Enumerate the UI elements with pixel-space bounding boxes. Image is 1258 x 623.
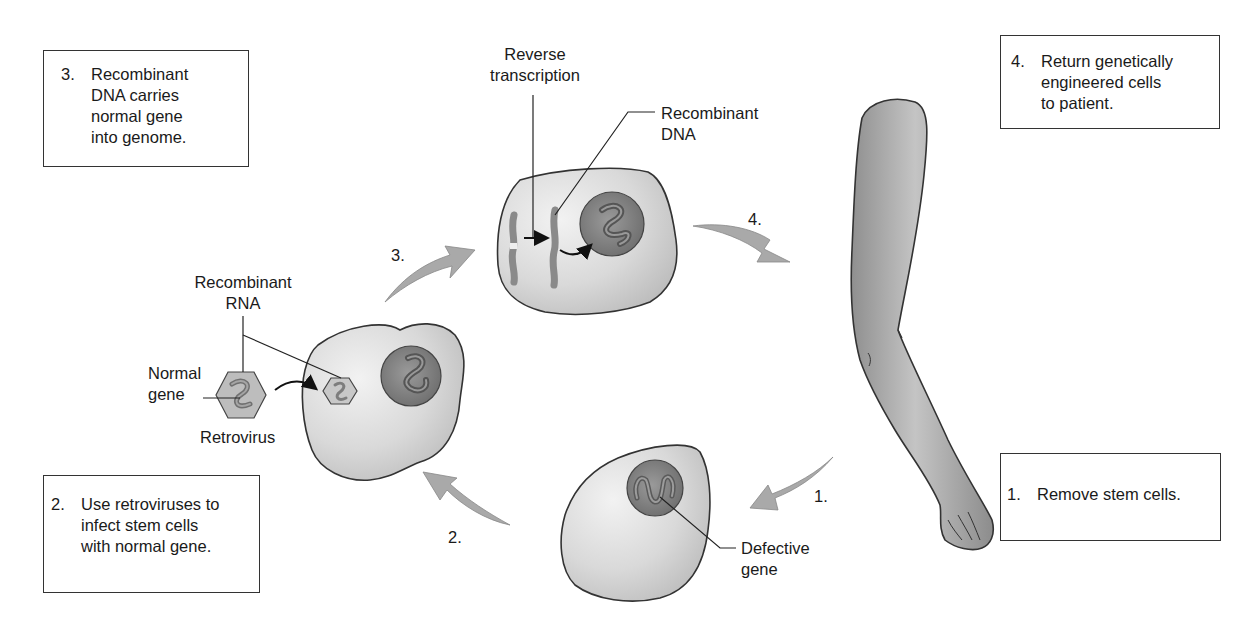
step-4-arrow — [693, 225, 790, 262]
stem-cell-transcription — [498, 168, 677, 314]
arrow-label-1: 1. — [814, 487, 828, 506]
label-retrovirus: Retrovirus — [200, 427, 275, 448]
arrow-label-3: 3. — [391, 246, 405, 265]
label-recombinant-dna: Recombinant DNA — [661, 103, 758, 145]
arrow-label-2: 2. — [448, 528, 462, 547]
step-box-2: 2. Use retroviruses to infect stem cells… — [43, 475, 260, 593]
label-recombinant-rna: Recombinant RNA — [183, 272, 303, 314]
step-2-arrow — [423, 472, 510, 525]
step-box-4: 4. Return genetically engineered cells t… — [1000, 35, 1220, 129]
step-number: 1. — [1007, 484, 1037, 505]
step-box-1: 1. Remove stem cells. — [1000, 453, 1221, 541]
arrow-label-4: 4. — [748, 210, 762, 229]
step-number: 2. — [51, 494, 81, 557]
step-description: Remove stem cells. — [1037, 484, 1181, 505]
stem-cell-infected — [302, 324, 464, 480]
retrovirus-particle — [216, 372, 315, 418]
step-description: Use retroviruses to infect stem cells wi… — [81, 494, 219, 557]
gene-therapy-diagram: 3. Recombinant DNA carries normal gene i… — [0, 0, 1258, 623]
step-description: Return genetically engineered cells to p… — [1041, 51, 1173, 114]
label-normal-gene: Normal gene — [148, 363, 201, 405]
label-defective-gene: Defective gene — [741, 538, 810, 580]
label-reverse-transcription: Reverse transcription — [475, 44, 595, 86]
step-description: Recombinant DNA carries normal gene into… — [91, 64, 188, 148]
step-number: 3. — [61, 64, 91, 148]
stem-cell-defective — [561, 445, 736, 601]
step-number: 4. — [1011, 51, 1041, 114]
patient-arm-illustration — [851, 99, 993, 549]
step-box-3: 3. Recombinant DNA carries normal gene i… — [43, 50, 249, 167]
